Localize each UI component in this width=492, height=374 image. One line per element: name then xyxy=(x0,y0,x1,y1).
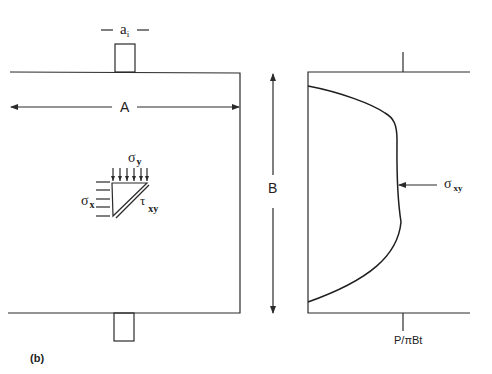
loading-width-label: ai xyxy=(120,21,130,39)
stress-distribution-diagram: ai A σy σx τxy xyxy=(0,0,492,374)
top-loading-platen xyxy=(115,44,135,72)
tau-xy-label: τxy xyxy=(140,193,158,214)
sigma-y-label: σy xyxy=(128,150,142,167)
loading-width-dimension: ai xyxy=(101,21,149,39)
plot-axes xyxy=(308,72,470,313)
specimen-panel: ai A σy σx τxy xyxy=(8,21,240,341)
panel-label: (b) xyxy=(30,352,44,364)
sigma-xy-label: σxy xyxy=(444,176,463,193)
shear-stress-curve xyxy=(308,86,401,302)
shear-stress-plot: P/πBt σxy xyxy=(308,52,470,346)
stress-element: σy σx τxy xyxy=(81,150,158,218)
bottom-loading-platen xyxy=(114,313,134,341)
axis-tick-label: P/πBt xyxy=(394,334,422,346)
specimen-height-dimension: B xyxy=(268,74,277,313)
specimen-width-dimension: A xyxy=(11,99,239,115)
sigma-x-label: σx xyxy=(81,193,95,210)
specimen-height-label: B xyxy=(268,180,277,196)
specimen-width-label: A xyxy=(120,99,130,115)
